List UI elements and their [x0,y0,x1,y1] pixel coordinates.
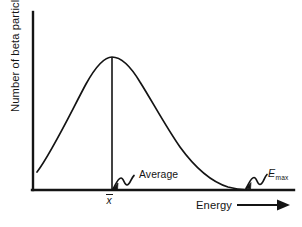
average-annotation-label: Average [139,170,178,180]
beta-spectrum-figure: Number of beta particles Energy Average … [0,0,302,227]
y-axis-title: Number of beta particles [10,0,21,112]
x-axis-title: Energy [196,200,232,211]
x-axis-mean-tick-label: x [105,194,113,206]
plot-canvas [0,0,302,227]
x-symbol: x [105,196,113,206]
energy-arrow-right-icon [237,200,290,211]
emax-subscript: max [276,174,289,181]
average-leader-squiggle-arrow-icon [113,176,134,190]
emax-leader-squiggle-arrow-icon [246,175,267,190]
emax-symbol: E [268,167,275,179]
emax-annotation-label: Emax [268,168,288,179]
